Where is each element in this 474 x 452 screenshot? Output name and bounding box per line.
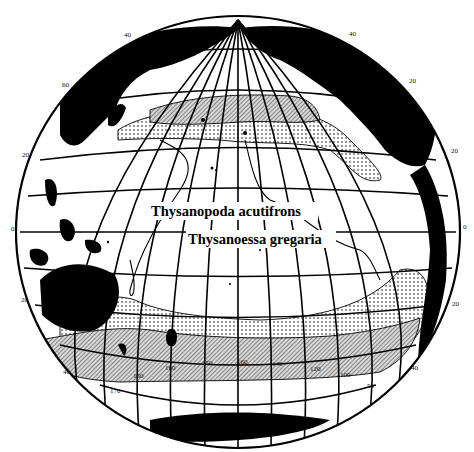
lon-tick: 160 [133, 372, 144, 380]
lat-tick-left: 20 [22, 151, 30, 159]
species-label-gregaria: Thysanoessa gregaria [188, 231, 323, 247]
lat-tick-left: 40 [124, 31, 132, 39]
lat-tick-right: 0 [463, 223, 467, 231]
lon-tick: 120 [310, 365, 321, 373]
lon-tick: 150 [202, 359, 213, 367]
lat-tick-left: 20 [21, 296, 29, 304]
lat-tick-left: 40 [63, 368, 71, 376]
species-label-acutifrons: Thysanopoda acutifrons [151, 203, 301, 219]
lon-tick: 50 [367, 382, 375, 390]
lon-tick: 170 [110, 387, 121, 395]
lon-tick: 140 [272, 360, 283, 368]
lat-tick-right: 40 [411, 364, 419, 372]
lon-tick: 160 [237, 358, 248, 366]
lat-tick-left: 60 [62, 81, 70, 89]
lon-tick: 100 [340, 371, 351, 379]
lat-tick-right: 20 [451, 147, 459, 155]
lon-tick: 160 [165, 364, 176, 372]
lat-tick-right: 40 [349, 30, 357, 38]
lat-tick-right: 20 [409, 77, 417, 85]
lat-tick-right: 20 [452, 300, 460, 308]
lat-tick-left: 0 [11, 225, 15, 233]
pacific-globe-map: 60 40 20 0 20 40 40 20 20 0 20 40 170 16… [0, 0, 474, 452]
